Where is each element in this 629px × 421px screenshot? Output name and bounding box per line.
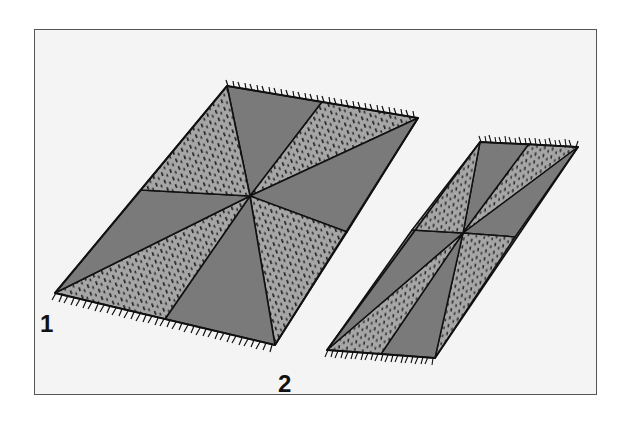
- rugs-illustration: [0, 0, 629, 421]
- rug-2-label: 2: [278, 372, 291, 396]
- rug-1-label: 1: [40, 312, 53, 336]
